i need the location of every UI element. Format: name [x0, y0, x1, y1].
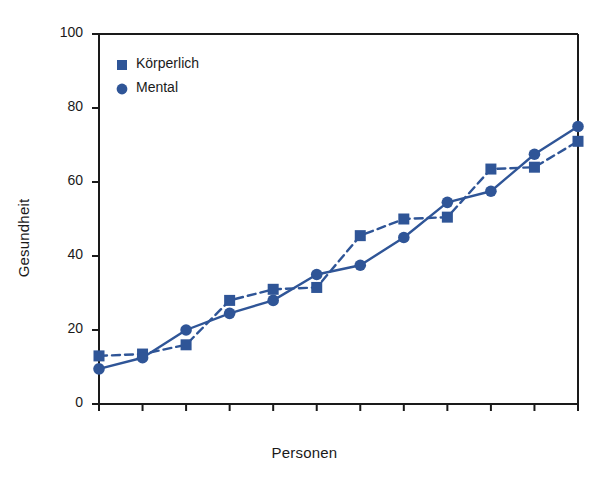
series-markers	[93, 121, 584, 375]
chart-figure: Gesundheit Personen 020406080100 Körperl…	[0, 0, 609, 482]
y-tick-label: 80	[43, 98, 83, 114]
y-tick-label: 60	[43, 172, 83, 188]
data-marker-square	[311, 282, 322, 293]
legend-label-mental: Mental	[136, 79, 178, 95]
legend-markers	[117, 60, 128, 94]
data-marker-square	[268, 284, 279, 295]
data-marker-square	[355, 230, 366, 241]
y-tick-label: 100	[43, 24, 83, 40]
y-tick-label: 40	[43, 246, 83, 262]
legend-square-marker-icon	[117, 60, 127, 70]
y-tick-label: 0	[43, 394, 83, 410]
data-marker-circle	[311, 269, 323, 281]
x-axis-label: Personen	[0, 444, 609, 461]
data-marker-square	[94, 350, 105, 361]
data-marker-square	[181, 339, 192, 350]
data-marker-square	[529, 162, 540, 173]
data-marker-square	[398, 214, 409, 225]
data-marker-circle	[224, 308, 236, 320]
y-tick-label: 20	[43, 320, 83, 336]
series-lines	[99, 127, 578, 369]
data-marker-square	[224, 295, 235, 306]
data-marker-circle	[442, 197, 454, 209]
data-marker-circle	[93, 363, 105, 375]
data-marker-square	[485, 164, 496, 175]
data-marker-circle	[572, 121, 584, 133]
data-marker-circle	[137, 352, 149, 364]
x-axis-tick-marks	[99, 404, 578, 411]
data-marker-square	[442, 212, 453, 223]
data-marker-circle	[529, 148, 541, 160]
legend-label-koerperlich: Körperlich	[136, 55, 199, 71]
data-marker-circle	[180, 324, 192, 336]
y-axis-label: Gesundheit	[12, 168, 34, 308]
series-line-körperlich	[99, 141, 578, 356]
legend-circle-marker-icon	[117, 84, 128, 95]
line-chart-plot	[0, 0, 609, 482]
y-axis-label-text: Gesundheit	[15, 199, 32, 278]
data-marker-circle	[267, 295, 279, 307]
data-marker-circle	[354, 259, 366, 271]
series-line-mental	[99, 127, 578, 369]
data-marker-circle	[485, 185, 497, 197]
data-marker-circle	[398, 232, 410, 244]
data-marker-square	[573, 136, 584, 147]
y-axis-tick-marks	[92, 34, 99, 404]
